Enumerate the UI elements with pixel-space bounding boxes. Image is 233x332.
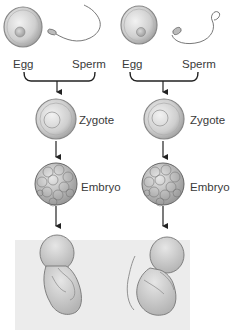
left-zygote (36, 99, 76, 139)
right-embryo-label: Embryo (190, 181, 230, 193)
left-embryo-label: Embryo (81, 181, 121, 193)
left-embryo (35, 163, 77, 206)
right-sperm-label: Sperm (182, 58, 216, 70)
diagram-canvas (0, 0, 233, 332)
left-zygote-label: Zygote (79, 114, 114, 126)
right-zygote-label: Zygote (190, 114, 225, 126)
right-sperm (172, 12, 220, 44)
left-brace (24, 72, 95, 81)
right-egg (121, 6, 157, 44)
right-brace (130, 72, 198, 81)
right-zygote (144, 99, 184, 139)
left-sperm (47, 5, 100, 41)
left-sperm-label: Sperm (72, 58, 106, 70)
right-egg-label: Egg (122, 58, 142, 70)
left-egg-label: Egg (13, 58, 33, 70)
right-embryo (142, 163, 184, 206)
left-egg (4, 7, 42, 47)
